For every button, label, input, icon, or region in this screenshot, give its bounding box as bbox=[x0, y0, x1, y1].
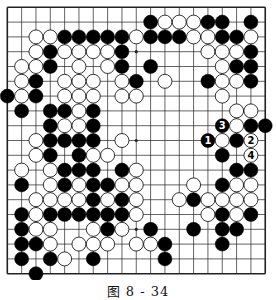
white-stone bbox=[101, 237, 115, 251]
black-stone bbox=[15, 208, 29, 222]
star-point bbox=[135, 50, 138, 53]
black-stone bbox=[172, 30, 186, 44]
white-stone bbox=[129, 163, 143, 177]
move-number: 4 bbox=[247, 150, 254, 161]
white-stone bbox=[201, 30, 215, 44]
black-stone bbox=[72, 148, 86, 162]
black-stone bbox=[86, 119, 100, 133]
white-stone bbox=[215, 134, 229, 148]
white-stone bbox=[43, 30, 57, 44]
white-stone bbox=[86, 237, 100, 251]
white-stone bbox=[101, 45, 115, 59]
black-stone bbox=[86, 252, 100, 266]
white-stone bbox=[72, 119, 86, 133]
black-stone bbox=[86, 30, 100, 44]
black-stone bbox=[86, 178, 100, 192]
black-stone bbox=[244, 60, 258, 74]
white-stone bbox=[15, 74, 29, 88]
black-stone bbox=[158, 237, 172, 251]
black-stone bbox=[29, 237, 43, 251]
black-stone bbox=[43, 104, 57, 118]
white-stone bbox=[129, 237, 143, 251]
move-number: 1 bbox=[204, 135, 211, 146]
black-stone bbox=[144, 15, 158, 29]
white-stone bbox=[29, 45, 43, 59]
black-stone bbox=[215, 237, 229, 251]
white-stone bbox=[86, 74, 100, 88]
white-stone bbox=[29, 208, 43, 222]
black-stone bbox=[43, 208, 57, 222]
white-stone bbox=[29, 148, 43, 162]
black-stone bbox=[43, 252, 57, 266]
white-stone bbox=[158, 15, 172, 29]
white-stone bbox=[215, 60, 229, 74]
white-stone bbox=[43, 222, 57, 236]
black-stone bbox=[15, 104, 29, 118]
white-stone bbox=[58, 119, 72, 133]
white-stone bbox=[86, 222, 100, 236]
white-stone bbox=[172, 193, 186, 207]
black-stone bbox=[215, 222, 229, 236]
black-stone bbox=[29, 74, 43, 88]
black-stone bbox=[187, 193, 201, 207]
black-stone bbox=[244, 74, 258, 88]
white-stone bbox=[230, 208, 244, 222]
black-stone bbox=[86, 163, 100, 177]
white-stone bbox=[115, 222, 129, 236]
black-stone bbox=[201, 15, 215, 29]
white-stone bbox=[230, 74, 244, 88]
white-stone bbox=[187, 30, 201, 44]
white-stone bbox=[72, 89, 86, 103]
white-stone bbox=[15, 89, 29, 103]
black-stone bbox=[15, 178, 29, 192]
black-stone bbox=[15, 237, 29, 251]
white-stone bbox=[29, 60, 43, 74]
white-stone bbox=[86, 89, 100, 103]
black-stone bbox=[230, 60, 244, 74]
black-stone bbox=[115, 208, 129, 222]
black-stone: 1 bbox=[201, 134, 215, 148]
black-stone bbox=[215, 15, 229, 29]
black-stone bbox=[101, 30, 115, 44]
white-stone bbox=[158, 74, 172, 88]
white-stone bbox=[29, 193, 43, 207]
black-stone bbox=[86, 208, 100, 222]
black-stone bbox=[144, 60, 158, 74]
black-stone bbox=[215, 148, 229, 162]
black-stone bbox=[43, 134, 57, 148]
white-stone bbox=[58, 89, 72, 103]
white-stone bbox=[230, 45, 244, 59]
black-stone bbox=[58, 134, 72, 148]
black-stone bbox=[144, 222, 158, 236]
black-stone bbox=[72, 30, 86, 44]
black-stone bbox=[129, 74, 143, 88]
white-stone bbox=[101, 148, 115, 162]
black-stone bbox=[244, 45, 258, 59]
black-stone bbox=[244, 15, 258, 29]
white-stone bbox=[129, 30, 143, 44]
black-stone bbox=[158, 252, 172, 266]
black-stone bbox=[230, 222, 244, 236]
white-stone bbox=[72, 104, 86, 118]
white-stone bbox=[129, 89, 143, 103]
black-stone bbox=[101, 222, 115, 236]
white-stone bbox=[230, 193, 244, 207]
go-board: 3124 bbox=[0, 0, 276, 280]
white-stone bbox=[115, 89, 129, 103]
white-stone bbox=[72, 60, 86, 74]
white-stone bbox=[244, 193, 258, 207]
black-stone bbox=[144, 30, 158, 44]
white-stone bbox=[43, 163, 57, 177]
white-stone bbox=[72, 193, 86, 207]
black-stone bbox=[43, 45, 57, 59]
black-stone bbox=[115, 30, 129, 44]
white-stone bbox=[72, 74, 86, 88]
white-stone bbox=[215, 89, 229, 103]
black-stone bbox=[115, 60, 129, 74]
black-stone bbox=[43, 119, 57, 133]
white-stone bbox=[187, 178, 201, 192]
black-stone bbox=[115, 163, 129, 177]
black-stone bbox=[86, 134, 100, 148]
black-stone: 3 bbox=[215, 119, 229, 133]
white-stone bbox=[244, 178, 258, 192]
